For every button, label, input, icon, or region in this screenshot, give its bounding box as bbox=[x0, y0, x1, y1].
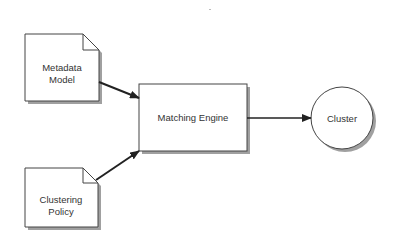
stray-mark bbox=[209, 9, 211, 10]
cluster-node[interactable]: Cluster bbox=[311, 87, 376, 152]
edge-metadata-to-engine bbox=[99, 82, 139, 98]
metadata-model-label-line1: Metadata bbox=[42, 62, 82, 73]
matching-engine-node[interactable]: Matching Engine bbox=[139, 84, 250, 154]
cluster-label: Cluster bbox=[327, 113, 357, 124]
matching-engine-label: Matching Engine bbox=[158, 112, 229, 123]
metadata-model-label-line2: Model bbox=[49, 74, 75, 85]
metadata-model-node[interactable]: Metadata Model bbox=[25, 34, 102, 104]
clustering-policy-label-line2: Policy bbox=[48, 206, 74, 217]
edge-policy-to-engine bbox=[96, 151, 139, 180]
diagram-canvas: Metadata Model Clustering Policy Matchin… bbox=[0, 0, 397, 246]
clustering-policy-node[interactable]: Clustering Policy bbox=[25, 168, 101, 230]
clustering-policy-label-line1: Clustering bbox=[40, 194, 83, 205]
